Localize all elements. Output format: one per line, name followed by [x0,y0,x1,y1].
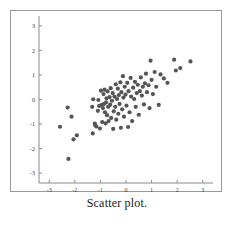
scatter-point [75,133,79,137]
y-tick-label: -1 [30,121,35,127]
y-tick-label: 1 [32,72,35,78]
scatter-point [109,116,113,120]
scatter-point [146,83,150,87]
scatter-point [91,97,95,101]
scatter-point [143,81,147,85]
scatter-point [118,80,122,84]
y-tick-label: 0 [32,97,35,103]
scatter-point [105,89,109,93]
scatter-point [142,102,146,106]
scatter-point [140,93,144,97]
scatter-point [138,89,142,93]
scatter-point [178,66,182,70]
x-tick-label: 0 [125,187,128,193]
scatter-point [132,97,136,101]
x-tick-label: -2 [72,187,77,193]
plot-axes-area: -3-2-10123 -3-2-10123 [11,11,223,193]
scatter-point [94,124,98,128]
scatter-point [174,68,178,72]
scatter-point [112,109,116,113]
scatter-point [126,125,130,129]
scatter-point [125,81,129,85]
scatter-point [154,85,158,89]
scatter-point [165,81,169,85]
scatter-point [69,115,73,119]
scatter-point [66,157,70,161]
scatter-point [111,127,115,131]
scatter-point [137,113,141,117]
scatter-point [66,106,70,110]
scatter-point [139,75,143,79]
scatter-point [121,74,125,78]
x-axis-ticks: -3-2-10123 [47,180,205,193]
scatter-point [148,59,152,63]
y-tick-label: -3 [30,170,35,176]
scatter-point [113,105,117,109]
scatter-point [149,78,153,82]
scatter-point [115,97,119,101]
scatter-point [129,76,133,80]
scatter-point [172,58,176,62]
scatter-point [134,105,138,109]
scatter-point [153,70,157,74]
scatter-point [123,92,127,96]
scatter-point [122,115,126,119]
axis-lines [39,16,213,183]
y-tick-label: -2 [30,146,35,152]
scatter-point [124,104,128,108]
scatter-point [99,89,103,93]
y-tick-label: 2 [32,48,35,54]
scatter-point [127,110,131,114]
figure-caption: Scatter plot. [0,196,234,211]
scatter-plot-svg: -3-2-10123 -3-2-10123 [11,11,223,193]
scatter-point [109,86,113,90]
scatter-point [126,89,130,93]
scatter-point [147,106,151,110]
scatter-point [114,118,118,122]
scatter-point [114,82,118,86]
scatter-point [151,92,155,96]
scatter-point [162,76,166,80]
scatter-point [119,90,123,94]
scatter-point [91,131,95,135]
scatter-point [131,86,135,90]
scatter-points-layer [58,58,193,161]
x-tick-label: 2 [176,187,179,193]
scatter-point [188,59,192,63]
x-tick-label: 1 [150,187,153,193]
x-tick-label: -3 [47,187,52,193]
scatter-point [116,112,120,116]
scatter-point [105,113,109,117]
scatter-point [108,95,112,99]
scatter-point [90,105,94,109]
x-tick-label: -1 [98,187,103,193]
scatter-point [123,85,127,89]
scatter-point [145,90,149,94]
scatter-point [136,83,140,87]
scatter-point [144,72,148,76]
scatter-point [96,109,100,113]
y-tick-label: 3 [32,23,35,29]
x-tick-label: 3 [201,187,204,193]
scatter-point [104,100,108,104]
scatter-point [98,126,102,130]
scatter-point [108,103,112,107]
scatter-point [71,137,75,141]
scatter-point [157,103,161,107]
scatter-point [158,72,162,76]
scatter-point [116,87,120,91]
scatter-point [96,98,100,102]
scatter-point [118,102,122,106]
scatter-point [120,107,124,111]
scatter-point [101,92,105,96]
scatter-point [130,119,134,123]
scatter-point [110,99,114,103]
plot-frame: -3-2-10123 -3-2-10123 [10,10,222,192]
scatter-plot-figure: -3-2-10123 -3-2-10123 Scatter plot. [0,0,234,227]
y-axis-ticks: -3-2-10123 [30,23,42,176]
scatter-point [119,126,123,130]
scatter-point [101,106,105,110]
scatter-point [58,125,62,129]
